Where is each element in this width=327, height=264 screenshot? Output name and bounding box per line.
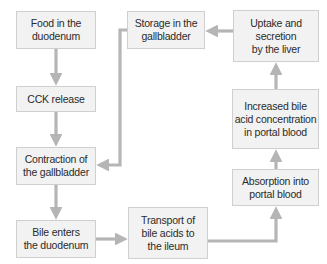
node-transport-to-ileum: Transport of bile acids to the ileum bbox=[128, 207, 208, 259]
node-cck-release: CCK release bbox=[16, 86, 96, 112]
node-contraction-gallbladder: Contraction of the gallbladder bbox=[16, 147, 96, 185]
node-bile-enters-duodenum: Bile enters the duodenum bbox=[16, 220, 96, 258]
node-absorption-portal-blood: Absorption into portal blood bbox=[232, 169, 319, 206]
arrow-storage-to-contraction bbox=[102, 30, 127, 165]
node-uptake-secretion-liver: Uptake and secretion by the liver bbox=[233, 10, 319, 62]
node-storage-gallbladder: Storage in the gallbladder bbox=[127, 11, 205, 49]
arrow-transport-to-absorption bbox=[208, 212, 276, 241]
bile-acid-cycle-diagram: Food in the duodenum CCK release Contrac… bbox=[0, 0, 327, 264]
node-increased-bile-acid: Increased bile acid concentration in por… bbox=[232, 89, 319, 149]
node-food-in-duodenum: Food in the duodenum bbox=[16, 11, 96, 49]
